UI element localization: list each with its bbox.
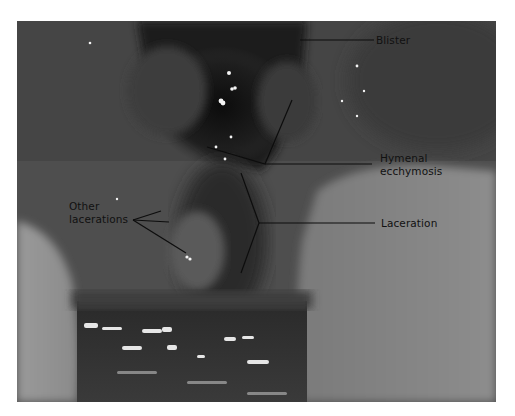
label-blister: Blister (376, 34, 410, 47)
label-laceration-text: Laceration (381, 217, 437, 229)
label-hymenal-ecchymosis: Hymenal ecchymosis (380, 152, 442, 178)
label-hymenal-line2: ecchymosis (380, 165, 442, 178)
label-hymenal-line1: Hymenal (380, 152, 442, 165)
label-other-line1: Other (69, 200, 128, 213)
label-other-line2: lacerations (69, 213, 128, 226)
label-laceration: Laceration (381, 217, 437, 230)
label-other-lacerations: Other lacerations (69, 200, 128, 226)
label-blister-text: Blister (376, 34, 410, 46)
